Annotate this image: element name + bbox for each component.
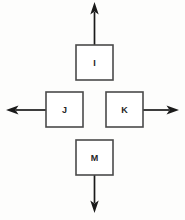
- block-i-label: I: [93, 58, 96, 68]
- block-k-group[interactable]: K: [106, 92, 179, 127]
- diagram-svg: I J K M: [0, 0, 185, 220]
- block-j-group[interactable]: J: [6, 92, 83, 127]
- block-m-group[interactable]: M: [76, 140, 113, 213]
- force-diagram: I J K M: [0, 0, 185, 220]
- block-i-group[interactable]: I: [76, 2, 113, 80]
- block-k-label: K: [121, 105, 128, 115]
- block-j-label: J: [62, 105, 67, 115]
- block-m-label: M: [91, 153, 99, 163]
